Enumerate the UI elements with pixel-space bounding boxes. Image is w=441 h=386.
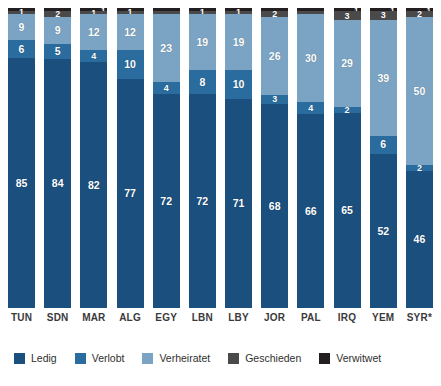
segment-value-label: 84	[52, 178, 64, 189]
bar-segment: 19	[225, 14, 252, 70]
bar-segment: 39	[370, 20, 397, 136]
bar-segment: 85	[8, 58, 35, 308]
bar-segment: 72	[153, 94, 180, 308]
bar-column: 1121077	[117, 8, 144, 308]
bar-segment: 50	[406, 17, 433, 166]
segment-value-label: 39	[377, 73, 389, 84]
bar-segment: 9	[44, 17, 71, 44]
bar-segment: 12	[117, 14, 144, 50]
x-axis-tick-label: MAR	[80, 312, 107, 332]
bar-segment: 19	[189, 14, 216, 70]
segment-value-label: 12	[124, 27, 136, 38]
bar-segment: 5	[44, 44, 71, 59]
x-axis-tick-label: ALG	[117, 312, 144, 332]
bar-segment: 29	[334, 20, 361, 107]
legend-label: Verwitwet	[336, 352, 381, 364]
bar-segment: 26	[261, 17, 288, 95]
bar-segment: 71	[225, 99, 252, 308]
segment-value-label: 30	[305, 53, 317, 64]
legend-swatch-icon	[228, 353, 239, 364]
segment-value-label: 65	[341, 205, 353, 216]
bar-segment: 52	[370, 154, 397, 308]
segment-value-label: 72	[160, 196, 172, 207]
segment-value-label: 3	[261, 95, 288, 104]
x-axis-tick-label: SYR*	[406, 312, 433, 332]
bar-segment: 4	[80, 50, 107, 62]
segment-value-label: 4	[80, 52, 107, 61]
legend-item: Verwitwet	[319, 352, 381, 364]
legend-label: Geschieden	[245, 352, 301, 364]
legend-item: Verlobt	[75, 352, 125, 364]
segment-value-label: 6	[380, 139, 386, 150]
bar-column: 119872	[189, 8, 216, 308]
segment-value-label: 68	[269, 201, 281, 212]
bar-segment: 82	[80, 62, 107, 308]
legend-swatch-icon	[75, 353, 86, 364]
legend-label: Verheiratet	[159, 352, 210, 364]
segment-value-label: 52	[377, 226, 389, 237]
segment-value-label: 82	[88, 180, 100, 191]
segment-value-label: 26	[269, 51, 281, 62]
segment-value-label: 46	[414, 234, 426, 245]
segment-value-label: 10	[233, 79, 245, 90]
x-axis-tick-label: LBY	[225, 312, 252, 332]
bar-segment: 30	[297, 14, 324, 102]
segment-value-label: 9	[19, 22, 25, 33]
x-axis-tick-label: YEM	[370, 312, 397, 332]
bar-segment: 3	[261, 95, 288, 104]
bar-segment: 4	[153, 82, 180, 94]
bar-segment: 66	[297, 114, 324, 308]
legend-item: Ledig	[14, 352, 57, 364]
chart-legend: LedigVerlobtVerheiratetGeschiedenVerwitw…	[14, 348, 434, 368]
x-axis-tick-label: IRQ	[334, 312, 361, 332]
legend-label: Ledig	[31, 352, 57, 364]
bar-segment: 8	[189, 70, 216, 94]
segment-value-label: 8	[199, 77, 205, 88]
legend-swatch-icon	[319, 353, 330, 364]
segment-value-label: 5	[55, 46, 61, 57]
bar-column: 1250246	[406, 8, 433, 308]
legend-label: Verlobt	[92, 352, 125, 364]
x-axis-tick-label: EGY	[153, 312, 180, 332]
bar-segment: 65	[334, 113, 361, 308]
segment-value-label: 10	[124, 59, 136, 70]
bar-column: 1339652	[370, 8, 397, 308]
segment-value-label: 4	[297, 103, 324, 112]
bar-segment: 9	[8, 14, 35, 40]
x-axis-tick-label: SDN	[44, 312, 71, 332]
segment-value-label: 6	[19, 44, 25, 55]
segment-value-label: 3	[370, 11, 397, 20]
segment-value-label: 50	[414, 86, 426, 97]
bar-segment: 77	[117, 79, 144, 308]
bar-segment: 3	[334, 11, 361, 20]
bar-segment: 72	[189, 94, 216, 308]
plot-area: 1968529584111248211210772347211987211910…	[8, 8, 433, 308]
bar-segment: 10	[225, 70, 252, 99]
segment-value-label: 29	[341, 58, 353, 69]
legend-item: Verheiratet	[142, 352, 210, 364]
bar-segment: 3	[370, 11, 397, 20]
segment-value-label: 72	[197, 196, 209, 207]
x-axis-tick-label: JOR	[261, 312, 288, 332]
segment-value-label: 66	[305, 206, 317, 217]
segment-value-label: 23	[160, 43, 172, 54]
bar-column: 226368	[261, 8, 288, 308]
bar-column: 1329265	[334, 8, 361, 308]
x-axis-labels: TUNSDNMARALGEGYLBNLBYJORPALIRQYEMSYR*	[8, 312, 433, 332]
segment-value-label: 77	[124, 188, 136, 199]
bar-column: 23472	[153, 8, 180, 308]
x-axis-tick-label: TUN	[8, 312, 35, 332]
bar-segment: 23	[153, 14, 180, 82]
bar-column: 19685	[8, 8, 35, 308]
bar-segment: 12	[80, 14, 107, 50]
segment-value-label: 19	[233, 37, 245, 48]
segment-value-label: 71	[233, 198, 245, 209]
bar-segment: 6	[8, 40, 35, 58]
legend-swatch-icon	[142, 353, 153, 364]
bar-column: 29584	[44, 8, 71, 308]
x-axis-tick-label: PAL	[297, 312, 324, 332]
legend-swatch-icon	[14, 353, 25, 364]
x-axis-tick-label: LBN	[189, 312, 216, 332]
segment-value-label: 9	[55, 25, 61, 36]
segment-value-label: 19	[197, 37, 209, 48]
